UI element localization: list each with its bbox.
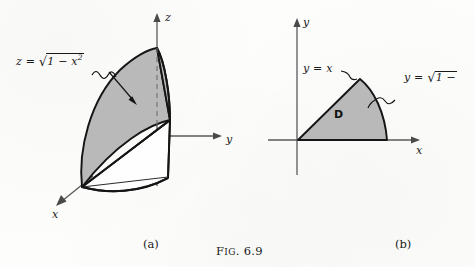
- panel-b-drawing: [0, 0, 475, 267]
- figure-caption: FIG. 6.9: [216, 244, 263, 258]
- figure-page: z = √1 − x2 z y x y x y = x y = √1 − D (…: [0, 0, 475, 267]
- curve-radicand: 1 −: [435, 71, 457, 85]
- region-d-label: D: [334, 108, 343, 121]
- figure-caption-number: . 6.9: [236, 244, 263, 258]
- figure-caption-smallcaps: IG: [224, 247, 236, 257]
- line-label-leader: [341, 71, 357, 80]
- panel-b-y-axis-label: y: [303, 16, 309, 29]
- curve-equation-radical: √1 −: [427, 70, 457, 85]
- panel-b-y-axis-line: [293, 18, 300, 175]
- panel-a-caption: (a): [143, 237, 159, 251]
- panel-b-x-axis-label: x: [416, 144, 422, 157]
- curve-equation-lhs: y =: [404, 71, 424, 84]
- line-equation-label: y = x: [303, 62, 333, 75]
- curve-equation-label: y = √1 −: [404, 70, 457, 85]
- panel-b-caption: (b): [395, 237, 411, 251]
